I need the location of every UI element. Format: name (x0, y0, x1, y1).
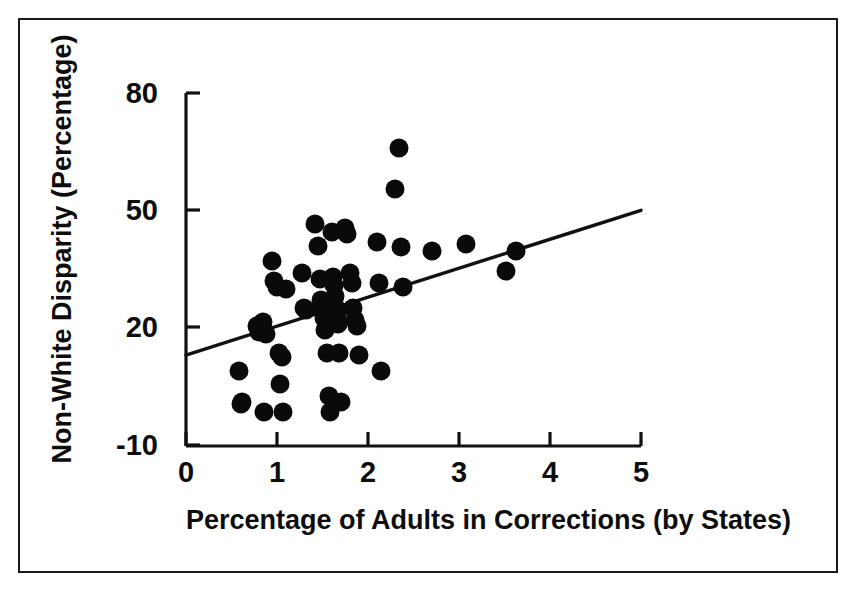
x-tick-label-3: 3 (451, 458, 467, 487)
scatter-point (391, 238, 410, 257)
scatter-point (255, 402, 274, 421)
scatter-point (229, 361, 248, 380)
scatter-point (263, 252, 282, 271)
y-tick-label-50: 50 (90, 196, 158, 225)
scatter-point (329, 344, 348, 363)
scatter-point (368, 232, 387, 251)
scatter-point (331, 392, 350, 411)
scatter-point (393, 277, 412, 296)
scatter-point (507, 242, 526, 261)
scatter-point (277, 279, 296, 298)
scatter-point (349, 346, 368, 365)
x-tick-label-2: 2 (360, 458, 376, 487)
y-tick-label-80: 80 (90, 79, 158, 108)
scatter-point (328, 314, 347, 333)
scatter-point (293, 263, 312, 282)
scatter-point (497, 261, 516, 280)
y-tick-label-20: 20 (90, 313, 158, 342)
scatter-point (371, 361, 390, 380)
x-tick-label-1: 1 (269, 458, 285, 487)
x-axis-title: Percentage of Adults in Corrections (by … (186, 505, 786, 536)
x-tick-label-0: 0 (178, 458, 194, 487)
scatter-point (369, 273, 388, 292)
scatter-point (457, 234, 476, 253)
y-tick-label-neg10: -10 (78, 431, 158, 460)
scatter-point (389, 138, 408, 157)
scatter-point (272, 348, 291, 367)
y-axis-title: Non-White Disparity (Percentage) (47, 104, 78, 464)
scatter-point (422, 242, 441, 261)
scatter-point (338, 224, 357, 243)
scatter-point (348, 316, 367, 335)
x-tick-label-5: 5 (633, 458, 649, 487)
scatter-point (270, 375, 289, 394)
scatter-point (342, 273, 361, 292)
figure-container: 80 50 20 -10 0 1 2 3 4 5 Non-White Dispa… (0, 0, 853, 592)
scatter-point (233, 392, 252, 411)
scatter-point (257, 324, 276, 343)
scatter-point (386, 179, 405, 198)
scatter-point (274, 402, 293, 421)
x-tick-label-4: 4 (542, 458, 558, 487)
